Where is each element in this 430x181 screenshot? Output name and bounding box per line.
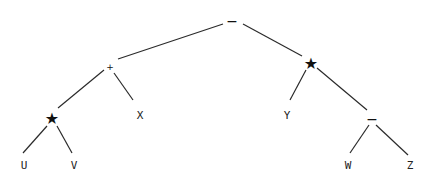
leaf-u: U bbox=[21, 159, 28, 172]
edge-minus-z bbox=[376, 125, 408, 155]
edge-minus-w bbox=[350, 125, 369, 153]
edge-root-plus bbox=[118, 24, 223, 59]
edge-star-left-u bbox=[23, 126, 47, 153]
leaf-x: X bbox=[137, 109, 144, 122]
expression-tree: − + ★ ★ − X Y U V W Z bbox=[0, 0, 430, 181]
edge-plus-star-left bbox=[58, 70, 104, 108]
edge-star-right-y bbox=[290, 70, 306, 100]
edge-root-star-right bbox=[243, 24, 302, 56]
node-root-minus: − bbox=[226, 13, 238, 29]
edge-star-right-minus bbox=[317, 68, 367, 110]
edge-star-left-v bbox=[57, 126, 72, 153]
node-plus: + bbox=[106, 62, 114, 72]
leaf-v: V bbox=[71, 159, 78, 172]
leaf-y: Y bbox=[284, 109, 291, 122]
leaf-z: Z bbox=[407, 159, 414, 172]
edge-plus-x bbox=[114, 73, 133, 100]
node-star-right: ★ bbox=[304, 54, 318, 73]
node-star-left: ★ bbox=[45, 109, 59, 128]
node-inner-minus: − bbox=[366, 111, 378, 127]
leaf-w: W bbox=[345, 159, 352, 172]
